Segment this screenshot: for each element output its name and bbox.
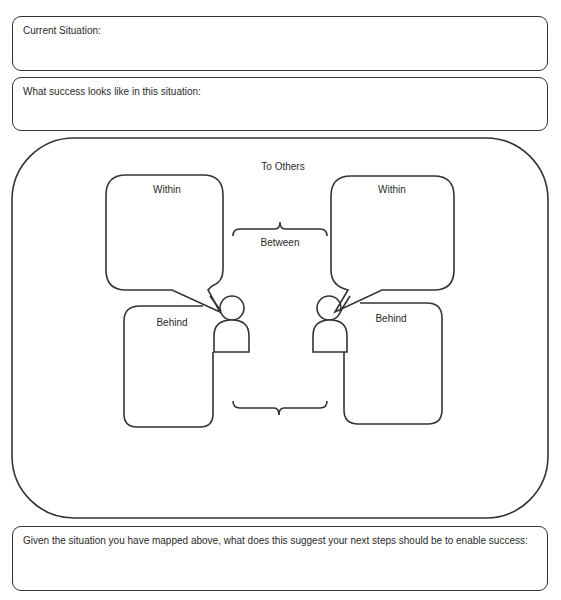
right-person-icon [313,296,350,352]
current-situation-box[interactable]: Current Situation: [12,16,548,71]
outer-frame [12,138,548,518]
right-within-label: Within [378,184,406,195]
between-label: Between [261,237,300,248]
between-brace-top [233,222,327,236]
success-label: What success looks like in this situatio… [23,86,537,98]
to-others-label: To Others [261,161,304,172]
current-situation-label: Current Situation: [23,25,537,37]
relationship-diagram: To Others Within Within Behind Behind Be… [0,130,561,522]
left-behind-label: Behind [156,317,187,328]
success-box[interactable]: What success looks like in this situatio… [12,77,548,131]
left-within-bubble[interactable] [106,175,223,312]
left-within-label: Within [153,184,181,195]
next-steps-label: Given the situation you have mapped abov… [23,535,537,547]
right-behind-label: Behind [375,313,406,324]
left-person-icon [210,296,249,352]
right-within-bubble[interactable] [331,176,454,312]
between-brace-bottom [233,401,327,415]
next-steps-box[interactable]: Given the situation you have mapped abov… [12,526,548,591]
